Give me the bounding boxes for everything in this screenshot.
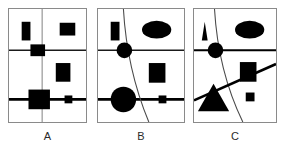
panel-c-caption: C [193, 128, 277, 144]
panel-c-small-square-bottom-right [246, 93, 255, 102]
panel-a-square-top-right [60, 23, 76, 36]
panel-c-graphic [194, 9, 276, 122]
panel-c-small-triangle-top-left [202, 22, 208, 41]
panel-c-diagonal-thick-line [194, 64, 276, 100]
panel-b-large-circle-bottom-left [111, 87, 136, 113]
panel-a-caption: A [8, 128, 87, 144]
figure-canvas: A B C [0, 0, 285, 152]
panel-b-small-circle-on-left-node [117, 42, 133, 58]
panel-b [97, 8, 185, 123]
panel-c-small-circle-on-left-node [208, 42, 224, 58]
panel-a-tall-rectangle [22, 22, 31, 41]
panel-a-rectangle-middle-right [56, 63, 71, 82]
panel-a-square-on-left-node [30, 44, 45, 56]
panel-a-small-square-on-thick-line [65, 95, 73, 103]
panel-b-ellipse-top-right [142, 21, 171, 39]
panel-a-graphic [9, 9, 86, 122]
panel-c-ellipse-top-right [235, 21, 264, 39]
panel-a-large-square-bottom-left [28, 90, 49, 110]
panel-b-tall-rectangle [111, 22, 120, 41]
panel-c-rectangle-middle-right [240, 62, 257, 82]
panel-c [193, 8, 277, 123]
panel-b-caption: B [97, 128, 185, 144]
panel-a [8, 8, 87, 123]
panel-b-rectangle-middle-right [149, 63, 166, 83]
panel-b-graphic [98, 9, 184, 122]
panel-b-small-square-on-thick-line [159, 95, 167, 103]
